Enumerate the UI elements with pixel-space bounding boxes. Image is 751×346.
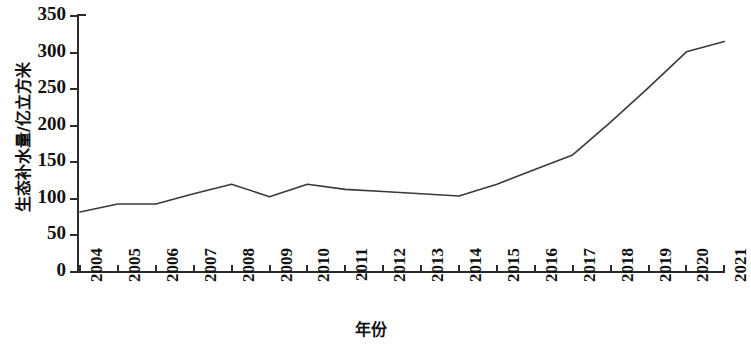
data-line-ecological-water (80, 42, 724, 212)
